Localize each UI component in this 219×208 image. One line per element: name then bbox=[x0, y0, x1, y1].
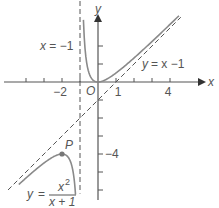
curve-equation-label: y = x 2 x + 1 bbox=[26, 177, 76, 208]
oblique-asymptote-label-y: y bbox=[141, 57, 149, 71]
curve-label-exponent: 2 bbox=[65, 177, 70, 187]
y-tick-label: −4 bbox=[105, 147, 119, 161]
curve-label-numerator: x bbox=[57, 180, 65, 194]
point-label: P bbox=[65, 138, 73, 152]
vertical-asymptote-label: x = −1 bbox=[39, 39, 74, 53]
oblique-asymptote bbox=[8, 17, 181, 190]
x-axis-label: x bbox=[207, 75, 215, 89]
x-tick-label: 4 bbox=[165, 85, 172, 99]
x-tick-label: −2 bbox=[53, 85, 67, 99]
y-axis-label: y bbox=[94, 2, 102, 16]
curve-label-y: y bbox=[26, 187, 34, 201]
origin-label: O bbox=[86, 84, 95, 98]
x-tick-label: 1 bbox=[115, 85, 122, 99]
curve-label-denominator: x + 1 bbox=[48, 195, 75, 208]
point-p bbox=[59, 151, 64, 156]
oblique-asymptote-label-rhs: = x −1 bbox=[151, 57, 185, 71]
function-graph: P x y O −214−4 x = −1 y = x −1 y = x 2 x… bbox=[0, 0, 219, 208]
curve-label-equals: = bbox=[38, 187, 45, 201]
